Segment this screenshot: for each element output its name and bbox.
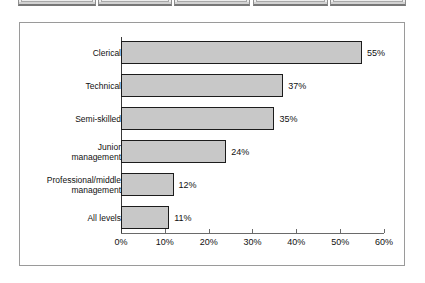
x-axis-tick-label: 10% — [145, 237, 185, 247]
bar-category-label: Clerical — [0, 48, 121, 58]
x-axis-tick — [384, 229, 385, 233]
bar-6 — [121, 206, 169, 229]
x-axis-line — [121, 233, 384, 234]
bar-4 — [121, 140, 226, 163]
x-axis-tick — [252, 229, 253, 233]
bar-3 — [121, 107, 274, 130]
bar-category-label: Professional/middle management — [0, 175, 121, 195]
chart-panel: Clerical55%Technical37%Semi-skilled35%Ju… — [19, 22, 405, 266]
y-axis-line — [121, 37, 122, 233]
x-axis-tick-label: 20% — [189, 237, 229, 247]
toolbar-box-1[interactable] — [18, 0, 96, 6]
bar-value-label: 12% — [179, 180, 197, 190]
bar-category-label: All levels — [0, 213, 121, 223]
bar-category-label: Junior management — [0, 142, 121, 162]
x-axis-tick-label: 60% — [364, 237, 404, 247]
toolbar-box-4[interactable] — [253, 0, 328, 6]
bar-value-label: 37% — [288, 81, 306, 91]
bar-value-label: 55% — [367, 48, 385, 58]
bar-5 — [121, 173, 174, 196]
toolbar-strip — [0, 0, 425, 9]
x-axis-tick-label: 50% — [320, 237, 360, 247]
toolbar-box-5[interactable] — [330, 0, 406, 6]
bar-category-label: Technical — [0, 81, 121, 91]
bar-value-label: 11% — [174, 213, 191, 223]
bar-chart-plot-area: Clerical55%Technical37%Semi-skilled35%Ju… — [20, 23, 406, 267]
x-axis-tick-label: 0% — [101, 237, 141, 247]
x-axis-tick — [165, 229, 166, 233]
x-axis-tick-label: 40% — [276, 237, 316, 247]
bar-1 — [121, 41, 362, 64]
bar-value-label: 24% — [231, 147, 249, 157]
toolbar-box-3[interactable] — [174, 0, 250, 6]
x-axis-tick-label: 30% — [232, 237, 272, 247]
x-axis-tick — [340, 229, 341, 233]
x-axis-tick — [296, 229, 297, 233]
toolbar-box-2[interactable] — [98, 0, 172, 6]
bar-value-label: 35% — [279, 114, 297, 124]
x-axis-tick — [209, 229, 210, 233]
bar-category-label: Semi-skilled — [0, 114, 121, 124]
bar-2 — [121, 74, 283, 97]
